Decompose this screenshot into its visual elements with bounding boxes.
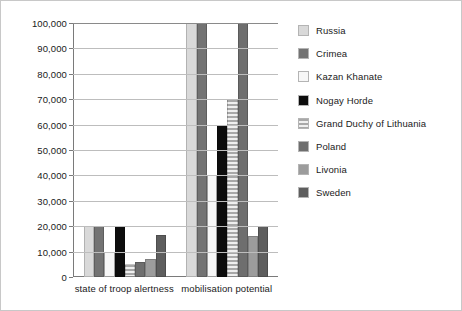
y-axis-tickmark: [69, 150, 73, 151]
x-axis-category-label: mobilisation potential: [181, 283, 272, 294]
legend-swatch-icon: [298, 187, 309, 198]
legend-item-label: Grand Duchy of Lithuania: [316, 118, 426, 129]
y-axis-tick-label: 50,000: [37, 145, 67, 156]
legend-item[interactable]: Crimea: [298, 42, 458, 65]
gridline: [73, 99, 278, 100]
y-axis-tick-label: 100,000: [32, 18, 67, 29]
y-axis-tickmark: [69, 175, 73, 176]
gridline: [73, 150, 278, 151]
y-axis-tick-label: 40,000: [37, 170, 67, 181]
legend-item[interactable]: Kazan Khanate: [298, 65, 458, 88]
legend-item[interactable]: Sweden: [298, 181, 458, 204]
legend-item[interactable]: Grand Duchy of Lithuania: [298, 112, 458, 135]
gridline: [73, 74, 278, 75]
legend-item[interactable]: Livonia: [298, 158, 458, 181]
legend-item-label: Kazan Khanate: [316, 71, 382, 82]
legend-swatch-icon: [298, 95, 309, 106]
y-axis-tickmark: [69, 252, 73, 253]
bar: [125, 264, 135, 277]
legend-item-label: Russia: [316, 25, 346, 36]
bar: [248, 236, 258, 277]
gridline: [73, 201, 278, 202]
legend-item-label: Sweden: [316, 187, 351, 198]
legend-item-label: Crimea: [316, 48, 347, 59]
y-axis-tick-label: 70,000: [37, 94, 67, 105]
y-axis-labels: 010,00020,00030,00040,00050,00060,00070,…: [1, 1, 73, 310]
legend-item-label: Livonia: [316, 164, 347, 175]
chart-legend: RussiaCrimeaKazan KhanateNogay HordeGran…: [298, 19, 458, 205]
legend-swatch-icon: [298, 48, 309, 59]
y-axis-tick-label: 60,000: [37, 119, 67, 130]
gridline: [73, 48, 278, 49]
gridline: [73, 226, 278, 227]
bar: [104, 252, 114, 277]
gridline: [73, 175, 278, 176]
gridline: [73, 252, 278, 253]
plot-area: [73, 23, 278, 277]
gridline: [73, 125, 278, 126]
y-axis-tick-label: 30,000: [37, 195, 67, 206]
y-axis-tickmark: [69, 277, 73, 278]
legend-swatch-icon: [298, 164, 309, 175]
bar: [135, 262, 145, 277]
y-axis-tickmark: [69, 23, 73, 24]
bar: [145, 259, 155, 277]
legend-swatch-icon: [298, 25, 309, 36]
bar-chart: 010,00020,00030,00040,00050,00060,00070,…: [0, 0, 462, 311]
y-axis-tickmark: [69, 74, 73, 75]
y-axis-tick-label: 10,000: [37, 246, 67, 257]
y-axis-tickmark: [69, 48, 73, 49]
bar: [156, 235, 166, 277]
y-axis-tick-label: 20,000: [37, 221, 67, 232]
legend-item-label: Nogay Horde: [316, 95, 373, 106]
legend-item[interactable]: Poland: [298, 135, 458, 158]
legend-swatch-icon: [298, 141, 309, 152]
y-axis-tickmark: [69, 226, 73, 227]
y-axis-tick-label: 80,000: [37, 68, 67, 79]
y-axis-tick-label: 0: [62, 272, 67, 283]
legend-item-label: Poland: [316, 141, 346, 152]
y-axis-tickmark: [69, 201, 73, 202]
legend-item[interactable]: Nogay Horde: [298, 89, 458, 112]
legend-swatch-icon: [298, 71, 309, 82]
y-axis-tickmark: [69, 99, 73, 100]
legend-item[interactable]: Russia: [298, 19, 458, 42]
bar: [227, 99, 237, 277]
legend-swatch-icon: [298, 118, 309, 129]
x-axis-category-label: state of troop alertness: [75, 283, 174, 294]
y-axis-tick-label: 90,000: [37, 43, 67, 54]
y-axis-tickmark: [69, 125, 73, 126]
gridline: [73, 23, 278, 24]
